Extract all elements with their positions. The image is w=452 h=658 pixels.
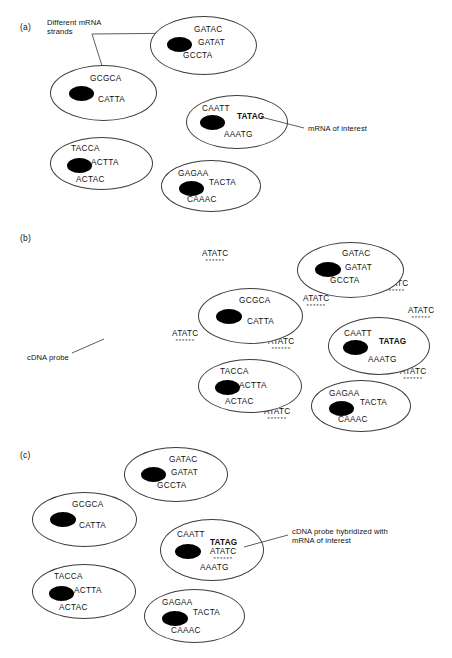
sequence-gagaa: GAGAA: [162, 598, 193, 607]
cell-gcgca: GCGCA CATTA: [198, 288, 303, 344]
sequence-tacca: TACCA: [71, 144, 100, 153]
nucleus: [216, 309, 242, 324]
nucleus: [343, 340, 368, 355]
annotation-cdna-probe-hybridized: cDNA probe hybridized with mRNA of inter…: [292, 527, 388, 545]
cell-caatt: CAATT TATAG AAATG: [328, 317, 430, 375]
sequence-actac: ACTAC: [59, 603, 88, 612]
sequence-caaac: CAAAC: [338, 415, 368, 424]
sequence-caatt: CAATT: [344, 329, 372, 338]
nucleus: [215, 380, 240, 395]
annotation-line-1: cDNA probe hybridized with: [292, 527, 388, 536]
sequence-gagaa: GAGAA: [329, 389, 360, 398]
sequence-caaac: CAAAC: [187, 195, 217, 204]
sequence-tacta: TACTA: [193, 608, 220, 617]
nucleus: [329, 401, 354, 416]
sequence-tacca: TACCA: [220, 367, 249, 376]
cell-gatac: GATAC GATAT GCCTA: [297, 242, 404, 298]
sequence-actta: ACTTA: [239, 381, 267, 390]
sequence-actta: ACTTA: [74, 586, 102, 595]
sequence-tatag-highlight: TATAG: [379, 337, 406, 346]
sequence-gcgca: GCGCA: [239, 296, 271, 305]
sequence-tacta: TACTA: [360, 398, 387, 407]
annotation-mrna-of-interest: mRNA of interest: [308, 124, 367, 133]
sequence-gatac: GATAC: [342, 249, 371, 258]
sequence-gccta: GCCTA: [330, 276, 360, 285]
sequence-tacca: TACCA: [54, 572, 83, 581]
sequence-actta: ACTTA: [91, 158, 119, 167]
annotation-line-2: mRNA of interest: [292, 536, 351, 545]
sequence-tacta: TACTA: [209, 178, 236, 187]
nucleus: [162, 611, 188, 626]
panel-c: (c) GATAC GATAT GCCTA GCGCA CATTA CAATT …: [0, 437, 452, 658]
sequence-aaatg: AAATG: [368, 355, 397, 364]
panel-b: (b) ATATC ****** ATATC ****** ATATC ****…: [0, 225, 452, 437]
sequence-gagaa: GAGAA: [178, 169, 209, 178]
cell-tacca: TACCA ACTTA ACTAC: [32, 564, 136, 619]
sequence-gatat: GATAT: [345, 263, 372, 272]
cell-gagaa: GAGAA TACTA CAAAC: [144, 589, 245, 643]
nucleus: [315, 262, 341, 277]
sequence-actac: ACTAC: [225, 397, 254, 406]
nucleus: [179, 181, 204, 196]
sequence-actac: ACTAC: [76, 175, 105, 184]
nucleus: [49, 586, 74, 601]
cell-tacca: TACCA ACTTA ACTAC: [50, 137, 153, 190]
cell-tacca: TACCA ACTTA ACTAC: [198, 359, 302, 413]
nucleus: [67, 158, 92, 173]
sequence-catta: CATTA: [247, 317, 274, 326]
panel-a: (a) Different mRNA strands GATAC GATAT G…: [0, 0, 452, 225]
sequence-caaac: CAAAC: [171, 626, 201, 635]
cell-gagaa: GAGAA TACTA CAAAC: [161, 160, 261, 212]
cell-gagaa: GAGAA TACTA CAAAC: [311, 380, 411, 432]
